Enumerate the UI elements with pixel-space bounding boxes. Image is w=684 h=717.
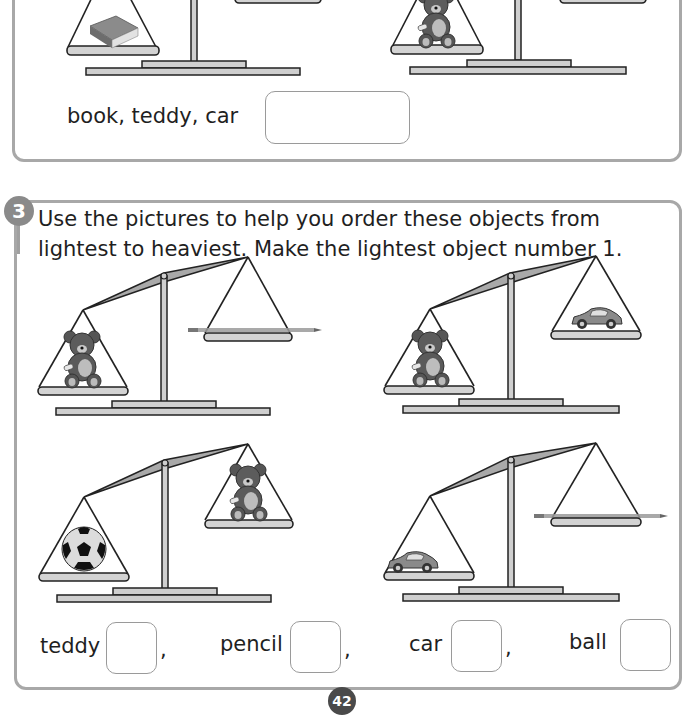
- scale-teddy-vs-pencil: [38, 257, 322, 415]
- answer-box-car[interactable]: [451, 620, 502, 672]
- scale-car-vs-pencil: [384, 443, 668, 601]
- teddy-icon: [230, 464, 267, 521]
- separator: ,: [344, 638, 351, 662]
- teddy-icon: [418, 0, 455, 48]
- scale-ball-vs-teddy: [39, 444, 293, 602]
- scale-teddy-vs-car: [384, 256, 641, 413]
- ball-icon: [62, 527, 106, 571]
- teddy-icon: [64, 331, 101, 388]
- scale-prev-2: [391, 0, 646, 74]
- teddy-icon: [412, 330, 449, 387]
- answer-label-pencil: pencil: [220, 632, 283, 656]
- prev-answer-box[interactable]: [265, 91, 410, 144]
- prev-prompt-items: book, teddy, car: [67, 104, 238, 128]
- answer-box-teddy[interactable]: [106, 622, 157, 674]
- separator: ,: [160, 638, 167, 662]
- answer-label-car: car: [409, 632, 442, 656]
- answer-box-pencil[interactable]: [290, 621, 341, 673]
- separator: ,: [505, 636, 512, 660]
- page-number-badge: 42: [328, 687, 356, 715]
- answer-label-ball: ball: [569, 630, 607, 654]
- scale-prev-1: [67, 0, 321, 75]
- answer-box-ball[interactable]: [620, 619, 671, 671]
- answer-label-teddy: teddy: [40, 634, 100, 658]
- book-icon: [90, 16, 138, 48]
- car-icon: [572, 308, 622, 329]
- pencil-icon: [188, 328, 322, 332]
